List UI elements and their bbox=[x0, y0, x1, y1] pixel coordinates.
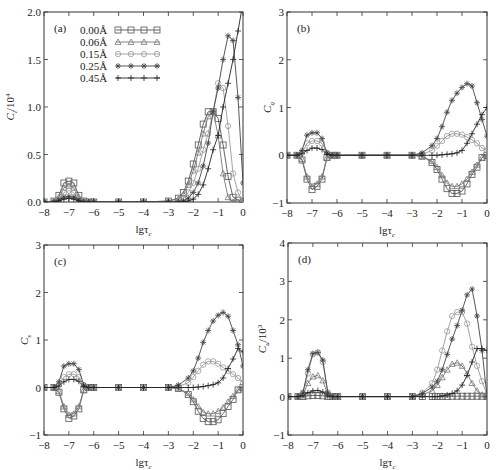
x-tick-label: −4 bbox=[138, 439, 150, 451]
panel-label: (a) bbox=[54, 22, 67, 35]
x-tick-label: −7 bbox=[63, 439, 75, 451]
series-line bbox=[287, 155, 487, 193]
plus-marker-icon bbox=[449, 151, 455, 157]
figure: −8−7−6−5−4−3−2−100.00.51.01.52.0lgτcCl/1… bbox=[0, 0, 496, 470]
star-marker-icon bbox=[320, 357, 326, 363]
x-tick-label: −7 bbox=[306, 207, 318, 219]
x-tick-label: −1 bbox=[212, 439, 224, 451]
series-line bbox=[44, 388, 243, 422]
plus-marker-icon bbox=[240, 349, 246, 355]
y-tick-label: 0.5 bbox=[27, 149, 41, 161]
x-axis-label: lgτc bbox=[135, 456, 152, 470]
plot-frame bbox=[288, 243, 487, 435]
x-tick-label: −5 bbox=[357, 439, 369, 451]
y-axis-label: Cs bbox=[18, 335, 33, 345]
plus-marker-icon bbox=[205, 166, 211, 172]
y-tick-label: −1 bbox=[272, 197, 284, 209]
star-marker-icon bbox=[474, 313, 480, 319]
star-marker-icon bbox=[459, 84, 465, 90]
y-tick-label: 0.0 bbox=[27, 196, 41, 208]
star-marker-icon bbox=[185, 375, 191, 381]
star-marker-icon bbox=[464, 292, 470, 298]
x-axis-label: lgτc bbox=[135, 223, 152, 238]
star-marker-icon bbox=[115, 63, 121, 69]
legend-label: 0.06Å bbox=[80, 36, 107, 48]
series-line bbox=[44, 3, 243, 203]
star-marker-icon bbox=[128, 63, 134, 69]
plus-marker-icon bbox=[230, 356, 236, 362]
series-line bbox=[44, 112, 243, 202]
series-group bbox=[41, 0, 246, 205]
y-tick-label: 0 bbox=[36, 382, 42, 394]
legend: 0.00Å0.06Å0.15Å0.25Å0.45Å bbox=[80, 24, 160, 84]
x-tick-label: −3 bbox=[163, 439, 175, 451]
plus-marker-icon bbox=[115, 75, 121, 81]
star-marker-icon bbox=[429, 143, 435, 149]
y-axis-label: Cl/104 bbox=[4, 93, 19, 120]
star-marker-icon bbox=[76, 366, 82, 372]
star-marker-icon bbox=[215, 85, 221, 91]
plus-marker-icon bbox=[190, 385, 196, 391]
star-marker-icon bbox=[469, 83, 475, 89]
star-marker-icon bbox=[210, 318, 216, 324]
x-tick-label: −5 bbox=[113, 439, 125, 451]
star-marker-icon bbox=[484, 394, 490, 400]
plus-marker-icon bbox=[210, 147, 216, 153]
x-tick-label: −2 bbox=[431, 439, 443, 451]
x-tick-label: −1 bbox=[456, 207, 468, 219]
series-group bbox=[41, 309, 246, 424]
plus-marker-icon bbox=[195, 384, 201, 390]
star-marker-icon bbox=[449, 97, 455, 103]
star-marker-icon bbox=[439, 124, 445, 130]
plot-frame bbox=[287, 12, 487, 203]
plus-marker-icon bbox=[439, 152, 445, 158]
plus-marker-icon bbox=[474, 121, 480, 127]
x-tick-label: −7 bbox=[63, 206, 75, 218]
plus-marker-icon bbox=[469, 131, 475, 137]
y-axis-label: Cu/103 bbox=[256, 324, 271, 353]
star-marker-icon bbox=[200, 339, 206, 345]
panel-b: −8−7−6−5−4−3−2−10−10123lgτcCq(b) bbox=[261, 6, 490, 239]
star-marker-icon bbox=[439, 367, 445, 373]
star-marker-icon bbox=[71, 361, 77, 367]
y-tick-label: 0 bbox=[280, 391, 286, 403]
panel-d: −8−7−6−5−4−3−2−10−101234lgτcCu/103(d) bbox=[256, 237, 490, 470]
panel-label: (d) bbox=[298, 253, 311, 266]
x-axis-label: lgτc bbox=[379, 224, 396, 239]
x-axis-label: lgτc bbox=[379, 456, 396, 470]
star-marker-icon bbox=[429, 384, 435, 390]
plus-marker-icon bbox=[240, 0, 246, 6]
panel-label: (c) bbox=[54, 255, 67, 268]
x-tick-label: −1 bbox=[212, 206, 224, 218]
plus-marker-icon bbox=[235, 28, 241, 34]
star-marker-icon bbox=[141, 63, 147, 69]
series-line bbox=[44, 36, 243, 202]
star-marker-icon bbox=[469, 286, 475, 292]
x-tick-label: −2 bbox=[431, 207, 443, 219]
x-tick-label: 0 bbox=[240, 439, 246, 451]
plus-marker-icon bbox=[444, 151, 450, 157]
legend-label: 0.45Å bbox=[80, 72, 107, 84]
y-tick-label: 4 bbox=[280, 237, 286, 249]
x-tick-label: −6 bbox=[88, 439, 100, 451]
star-marker-icon bbox=[315, 349, 321, 355]
star-marker-icon bbox=[220, 57, 226, 63]
x-tick-label: −4 bbox=[381, 207, 393, 219]
star-marker-icon bbox=[225, 33, 231, 39]
star-marker-icon bbox=[454, 323, 460, 329]
star-marker-icon bbox=[154, 63, 160, 69]
star-marker-icon bbox=[305, 367, 311, 373]
x-tick-label: −3 bbox=[163, 206, 175, 218]
star-marker-icon bbox=[235, 95, 241, 101]
plus-marker-icon bbox=[205, 383, 211, 389]
star-marker-icon bbox=[190, 368, 196, 374]
plus-marker-icon bbox=[128, 75, 134, 81]
x-tick-label: −4 bbox=[138, 206, 150, 218]
legend-label: 0.00Å bbox=[80, 24, 107, 36]
x-tick-label: −6 bbox=[88, 206, 100, 218]
star-marker-icon bbox=[230, 38, 236, 44]
x-tick-label: −2 bbox=[187, 439, 199, 451]
star-marker-icon bbox=[195, 355, 201, 361]
y-tick-label: −1 bbox=[273, 429, 285, 441]
x-tick-label: −3 bbox=[406, 207, 418, 219]
